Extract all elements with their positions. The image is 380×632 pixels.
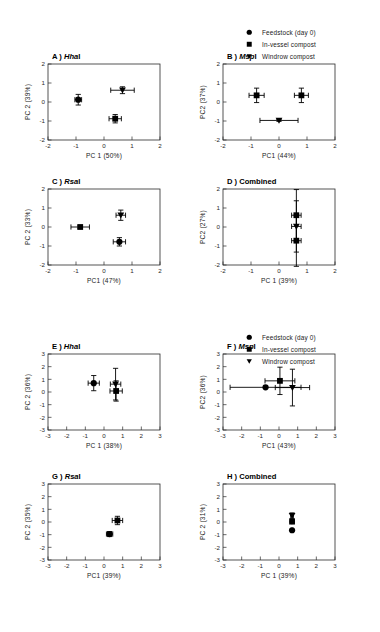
x-tick-label: -1 bbox=[258, 562, 264, 569]
legend-item-label: Feedstock (day 0) bbox=[262, 29, 316, 36]
panel-c-title: C ) RsaI bbox=[52, 177, 80, 186]
x-tick-label: 1 bbox=[130, 267, 134, 274]
x-tick-label: 2 bbox=[315, 562, 319, 569]
panel-d-xlabel: PC 1 (39%) bbox=[261, 277, 297, 285]
panel-enzyme-name: Rsa bbox=[64, 177, 78, 186]
panel-title-suffix: I bbox=[254, 52, 256, 61]
x-tick-label: -1 bbox=[258, 432, 264, 439]
circle-marker-icon bbox=[262, 384, 268, 390]
y-tick-label: 2 bbox=[42, 493, 46, 500]
panel-letter: A ) bbox=[52, 52, 64, 61]
data-point bbox=[111, 87, 135, 94]
circle-marker-icon bbox=[243, 29, 255, 36]
x-tick-label: 3 bbox=[158, 562, 162, 569]
circle-marker-icon bbox=[289, 527, 295, 533]
x-tick-label: -2 bbox=[45, 142, 51, 149]
panel-b-title: B ) MspI bbox=[227, 52, 257, 61]
legend-item-circle: Feedstock (day 0) bbox=[243, 27, 316, 38]
legend-item-label: Feedstock (day 0) bbox=[262, 334, 316, 341]
panel-h: H ) Combined-3-2-10123-3-2-10123PC 1 (39… bbox=[197, 472, 345, 582]
circle-marker-icon bbox=[75, 97, 81, 103]
data-point bbox=[294, 88, 308, 102]
data-point bbox=[106, 531, 112, 537]
panel-h-xlabel: PC 1 (39%) bbox=[261, 572, 297, 580]
x-tick-label: -3 bbox=[45, 432, 51, 439]
plot-frame bbox=[48, 64, 160, 140]
y-tick-label: 0 bbox=[42, 518, 46, 525]
y-tick-label: -2 bbox=[39, 414, 45, 421]
y-tick-label: 1 bbox=[42, 204, 46, 211]
y-tick-label: -2 bbox=[214, 544, 220, 551]
x-tick-label: 0 bbox=[277, 142, 281, 149]
panel-f-xlabel: PC1 (43%) bbox=[262, 442, 296, 450]
data-point bbox=[109, 115, 121, 123]
circle-marker-icon bbox=[243, 334, 255, 341]
x-tick-label: 2 bbox=[333, 267, 337, 274]
y-tick-label: -1 bbox=[214, 242, 220, 249]
square-marker-icon bbox=[299, 92, 305, 98]
square-marker-icon bbox=[277, 378, 283, 384]
y-tick-label: 1 bbox=[217, 204, 221, 211]
y-tick-label: 2 bbox=[217, 493, 221, 500]
data-point bbox=[110, 368, 120, 400]
x-tick-label: -3 bbox=[45, 562, 51, 569]
y-tick-label: 3 bbox=[42, 480, 46, 487]
y-tick-label: -3 bbox=[39, 426, 45, 433]
panel-title-suffix: I bbox=[78, 52, 80, 61]
plot-frame bbox=[223, 354, 335, 430]
square-marker-icon bbox=[254, 92, 260, 98]
plot-frame bbox=[223, 189, 335, 265]
square-marker-icon bbox=[293, 238, 299, 244]
panel-letter: F ) bbox=[227, 342, 238, 351]
y-tick-label: -1 bbox=[39, 401, 45, 408]
y-tick-label: 2 bbox=[217, 185, 221, 192]
panel-e-plot: -3-2-10123-3-2-10123PC 1 (38%)PC 2 (36%) bbox=[22, 342, 170, 452]
x-tick-label: 0 bbox=[277, 267, 281, 274]
x-tick-label: 1 bbox=[296, 562, 300, 569]
y-tick-label: -1 bbox=[39, 531, 45, 538]
data-point bbox=[260, 118, 298, 124]
panel-letter: B ) bbox=[227, 52, 239, 61]
plot-frame bbox=[48, 189, 160, 265]
x-tick-label: 0 bbox=[102, 432, 106, 439]
data-point bbox=[116, 210, 126, 220]
panel-title-suffix: I bbox=[78, 177, 80, 186]
x-tick-label: 3 bbox=[333, 432, 337, 439]
x-tick-label: 1 bbox=[121, 562, 125, 569]
plot-frame bbox=[48, 354, 160, 430]
square-marker-icon bbox=[112, 116, 118, 122]
panel-c: C ) RsaI-2-1012-2-1012PC1 (47%)PC 2 (33%… bbox=[22, 177, 170, 287]
y-tick-label: -2 bbox=[214, 136, 220, 143]
plot-frame bbox=[223, 484, 335, 560]
y-tick-label: -1 bbox=[39, 242, 45, 249]
data-point bbox=[113, 238, 125, 246]
panel-b-xlabel: PC1 (44%) bbox=[262, 152, 296, 160]
y-tick-label: 2 bbox=[42, 185, 46, 192]
x-tick-label: 3 bbox=[333, 562, 337, 569]
panel-d-ylabel: PC2 (27%) bbox=[199, 210, 207, 244]
x-tick-label: -3 bbox=[220, 432, 226, 439]
x-tick-label: 2 bbox=[158, 142, 162, 149]
x-tick-label: -2 bbox=[64, 432, 70, 439]
panel-a-plot: -2-1012-2-1012PC 1 (50%)PC 2 (39%) bbox=[22, 52, 170, 162]
data-point bbox=[289, 519, 295, 525]
x-tick-label: -2 bbox=[64, 562, 70, 569]
data-point bbox=[112, 516, 122, 524]
data-point bbox=[88, 376, 99, 391]
panel-enzyme-name: Hha bbox=[64, 342, 78, 351]
x-tick-label: 0 bbox=[277, 562, 281, 569]
panel-h-plot: -3-2-10123-3-2-10123PC 1 (39%)PC 2 (31%) bbox=[197, 472, 345, 582]
panel-e-xlabel: PC 1 (38%) bbox=[86, 442, 122, 450]
y-tick-label: 3 bbox=[217, 350, 221, 357]
y-tick-label: 0 bbox=[217, 98, 221, 105]
y-tick-label: -1 bbox=[39, 117, 45, 124]
y-tick-label: 1 bbox=[217, 506, 221, 513]
y-tick-label: -3 bbox=[214, 556, 220, 563]
y-tick-label: 0 bbox=[42, 98, 46, 105]
panel-letter: H ) bbox=[227, 472, 239, 481]
y-tick-label: 1 bbox=[42, 376, 46, 383]
y-tick-label: -2 bbox=[214, 414, 220, 421]
panel-letter: G ) bbox=[52, 472, 65, 481]
panel-e: E ) HhaI-3-2-10123-3-2-10123PC 1 (38%)PC… bbox=[22, 342, 170, 452]
panel-h-title: H ) Combined bbox=[227, 472, 276, 481]
